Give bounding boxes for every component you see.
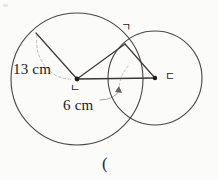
bottom-parenthesis-label: (	[102, 155, 108, 172]
segment-center-to-center	[77, 78, 155, 79]
diagram-canvas: 13 cm 6 cm ㄱ ㄴ ㄷ (	[0, 0, 218, 180]
point-dot-n	[75, 77, 80, 82]
segment-g-to-d	[125, 44, 155, 78]
radius-label-large-circle: 13 cm	[13, 62, 51, 77]
point-dot-d	[153, 76, 157, 80]
geometry-figure	[0, 0, 218, 180]
segment-center-to-g	[77, 44, 125, 79]
point-label-g: ㄱ	[121, 22, 131, 33]
point-label-n: ㄴ	[70, 83, 80, 94]
radius-label-small-circle: 6 cm	[63, 98, 93, 113]
point-label-d: ㄷ	[165, 71, 175, 82]
leader-arrowhead-6cm	[115, 86, 122, 93]
